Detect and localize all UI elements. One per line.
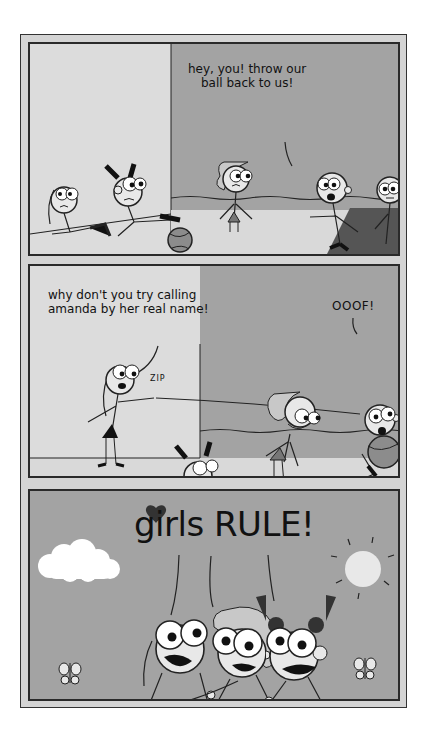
- exclamation-text: OOOF!: [332, 300, 375, 312]
- butterfly-icon: [59, 663, 81, 684]
- speech-bubble-text: hey, you! throw our ball back to us!: [188, 62, 306, 90]
- shout-text: girls RULE!: [134, 507, 314, 541]
- sun-icon: [331, 537, 394, 599]
- character-girl-pigtails: [106, 164, 180, 236]
- ball-icon: [168, 228, 192, 252]
- ball-icon: [368, 436, 400, 468]
- character-girl-long-hair: [88, 365, 154, 466]
- panel-2: why don't you try calling amanda by her …: [28, 264, 400, 478]
- character-girl-curly-hair: [213, 607, 276, 701]
- character-girl-long-hair: [49, 187, 110, 236]
- butterfly-icon: [354, 658, 376, 679]
- hands-icon: [207, 691, 273, 701]
- panel-1: hey, you! throw our ball back to us!: [28, 42, 400, 256]
- speech-bubble-text: why don't you try calling amanda by her …: [48, 288, 208, 316]
- character-girl-long-hair: [144, 620, 208, 701]
- cloud-icon: [38, 539, 120, 582]
- panel-3: girls RULE!: [28, 489, 400, 701]
- sound-effect-text: ZIP: [150, 375, 166, 383]
